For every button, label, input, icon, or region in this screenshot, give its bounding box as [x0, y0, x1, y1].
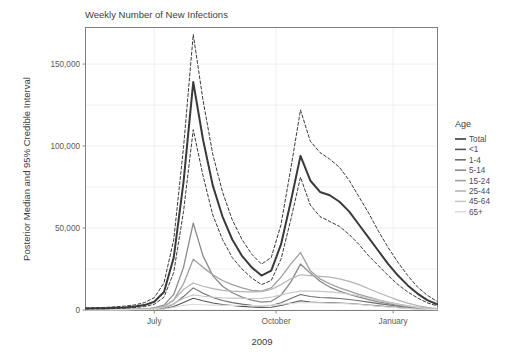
- legend-label: 5-14: [469, 166, 486, 175]
- legend-label: 25-44: [469, 187, 490, 196]
- plot-panel-border: [86, 28, 438, 311]
- legend-label: <1: [469, 145, 479, 154]
- series-line-5-14: [86, 223, 437, 310]
- legend-label: 65+: [469, 208, 483, 217]
- y-tick-label: 0: [75, 306, 80, 315]
- legend-label: Total: [469, 135, 486, 144]
- legend-item: 45-64: [455, 197, 490, 206]
- legend-item: 5-14: [455, 166, 486, 175]
- series-line-total-upper-95-ci: [86, 35, 437, 308]
- legend-item: 1-4: [455, 156, 481, 165]
- legend-title: Age: [455, 119, 471, 129]
- x-axis-title: 2009: [251, 336, 272, 347]
- x-axis-ticks: JulyOctoberJanuary: [147, 310, 409, 326]
- legend-label: 45-64: [469, 197, 490, 206]
- legend: Age Total<11-45-1415-2425-4445-6465+: [455, 119, 490, 217]
- chart-container: Weekly Number of New Infections Posterio…: [0, 0, 514, 360]
- series-line-total: [86, 82, 437, 308]
- x-tick-label: July: [147, 317, 162, 326]
- y-axis-ticks: 050,000100,000150,000: [50, 60, 86, 315]
- legend-label: 1-4: [469, 156, 481, 165]
- x-tick-label: October: [262, 317, 291, 326]
- y-tick-label: 150,000: [50, 60, 80, 69]
- x-tick-label: January: [379, 317, 409, 326]
- grid-lines: [86, 28, 437, 310]
- series-line-total-lower-95-ci: [86, 130, 437, 309]
- infections-line-chart: Weekly Number of New Infections Posterio…: [0, 0, 514, 360]
- chart-title: Weekly Number of New Infections: [85, 9, 228, 20]
- legend-item: 15-24: [455, 177, 490, 186]
- y-tick-label: 100,000: [50, 142, 80, 151]
- legend-items: Total<11-45-1415-2425-4445-6465+: [455, 135, 490, 217]
- legend-item: 65+: [455, 208, 483, 217]
- y-axis-title: Posterior Median and 95% Credible Interv…: [21, 77, 32, 261]
- legend-item: 25-44: [455, 187, 490, 196]
- y-tick-label: 50,000: [55, 224, 80, 233]
- legend-item: <1: [455, 145, 479, 154]
- legend-label: 15-24: [469, 177, 490, 186]
- legend-item: Total: [455, 135, 486, 144]
